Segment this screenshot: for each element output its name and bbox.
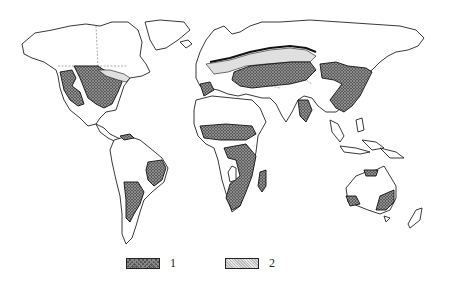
south-america [110, 134, 168, 244]
southeast-asia [330, 118, 404, 158]
world-map [0, 0, 451, 290]
africa [194, 96, 266, 212]
legend-item-1: 1 [126, 256, 176, 271]
legend-swatch-light-icon [225, 258, 259, 269]
legend-label-2: 2 [269, 256, 275, 271]
north-america [22, 20, 192, 146]
map-legend: 1 2 [0, 256, 451, 276]
legend-swatch-dark-icon [126, 258, 160, 269]
legend-label-1: 1 [170, 256, 176, 271]
australia [346, 166, 422, 228]
legend-item-2: 2 [225, 256, 275, 271]
